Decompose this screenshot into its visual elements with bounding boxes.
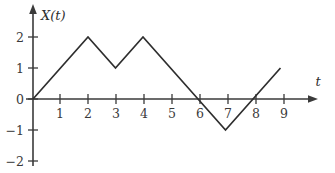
x-tick-label: 6 bbox=[196, 106, 204, 121]
signal-plot: 1 2 3 4 5 6 7 8 9 2 1 0 −1 −2 X(t) t bbox=[0, 0, 335, 173]
x-tick-label: 2 bbox=[84, 106, 92, 121]
x-tick-label: 5 bbox=[168, 106, 176, 121]
y-tick-label: 2 bbox=[16, 30, 24, 45]
x-axis-arrow-icon bbox=[308, 95, 318, 103]
y-tick-label: −1 bbox=[6, 123, 24, 138]
y-axis-label: X(t) bbox=[40, 8, 66, 23]
signal-waveform bbox=[33, 37, 281, 130]
x-tick-label: 3 bbox=[112, 106, 120, 121]
y-axis-arrow-icon bbox=[29, 4, 37, 14]
y-tick-label: 1 bbox=[16, 61, 24, 76]
y-tick-label: −2 bbox=[6, 154, 24, 169]
x-tick-label: 8 bbox=[252, 106, 260, 121]
x-axis-label: t bbox=[315, 74, 321, 89]
y-tick-label: 0 bbox=[16, 92, 24, 107]
x-tick-label: 7 bbox=[224, 106, 232, 121]
x-tick-label: 1 bbox=[56, 106, 64, 121]
figure-container: 1 2 3 4 5 6 7 8 9 2 1 0 −1 −2 X(t) t bbox=[0, 0, 335, 173]
x-tick-label: 4 bbox=[140, 106, 148, 121]
x-tick-label: 9 bbox=[280, 106, 288, 121]
